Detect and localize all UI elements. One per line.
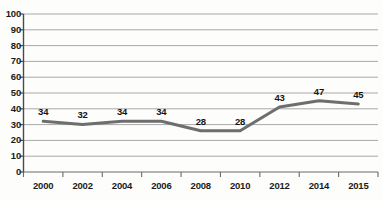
data-label: 45 — [353, 90, 363, 100]
data-label: 28 — [235, 117, 245, 127]
data-label: 34 — [156, 107, 166, 117]
data-label: 34 — [38, 107, 48, 117]
data-label: 34 — [117, 107, 127, 117]
data-label: 28 — [196, 117, 206, 127]
data-label: 47 — [314, 87, 324, 97]
data-label: 32 — [77, 110, 87, 120]
data-label: 43 — [274, 93, 284, 103]
line-chart: 0102030405060708090100 20002002200420062… — [0, 0, 382, 200]
data-point-labels: 343234342828434745 — [0, 0, 382, 200]
